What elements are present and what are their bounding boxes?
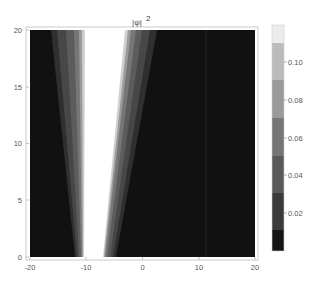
y-tick-label: 5 (18, 196, 22, 205)
x-tick-label: 0 (140, 263, 144, 272)
colorbar: 0.10 0.08 0.06 0.04 0.02 (272, 25, 303, 251)
chart-title: |ψ| 2 (132, 14, 151, 27)
contour-plot: 0 5 10 15 20 -20 -10 0 10 20 |ψ| 2 (0, 0, 316, 286)
y-tick-label: 0 (18, 253, 22, 262)
x-tick-label: 20 (251, 263, 259, 272)
colorbar-tick-label: 0.06 (288, 134, 303, 143)
y-tick-label: 15 (14, 83, 22, 92)
colorbar-tick-label: 0.02 (288, 209, 303, 218)
colorbar-tick-label: 0.04 (288, 171, 303, 180)
colorbar-tick-label: 0.10 (288, 58, 303, 67)
title-base: |ψ| (132, 18, 142, 27)
x-tick-label: -20 (25, 263, 36, 272)
y-tick-label: 10 (14, 139, 22, 148)
colorbar-tick-label: 0.08 (288, 96, 303, 105)
x-tick-label: -10 (81, 263, 92, 272)
y-tick-label: 20 (14, 26, 22, 35)
x-tick-label: 10 (195, 263, 203, 272)
title-superscript: 2 (146, 14, 151, 23)
